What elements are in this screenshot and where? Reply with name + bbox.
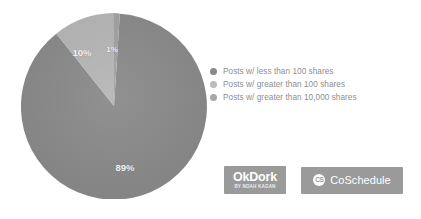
legend-dot-icon [210, 81, 217, 88]
coschedule-mark-label: CS [315, 174, 323, 186]
pie-chart-svg: 10% 1% 89% [21, 13, 207, 199]
legend-dot-icon [210, 94, 217, 101]
pie-chart-infographic: 10% 1% 89% Posts w/ less than 100 shares… [0, 0, 421, 219]
okdork-tagline: BY NOAH KAGAN [234, 184, 275, 190]
legend-item-greater-than-100[interactable]: Posts w/ greater than 100 shares [210, 79, 385, 91]
legend-item-label: Posts w/ less than 100 shares [223, 66, 334, 78]
branding-logos: OkDork BY NOAH KAGAN CS CoSchedule [224, 166, 403, 194]
legend-dot-icon [210, 68, 217, 75]
pie-label-greater-than-100: 10% [72, 47, 92, 58]
chart-legend: Posts w/ less than 100 shares Posts w/ g… [210, 66, 385, 105]
coschedule-mark-icon: CS [313, 174, 325, 186]
pie-label-less-than-100: 89% [115, 162, 135, 173]
okdork-wordmark: OkDork [233, 171, 277, 184]
pie-label-greater-than-10000: 1% [106, 45, 118, 54]
coschedule-wordmark: CoSchedule [330, 174, 390, 186]
legend-item-greater-than-10000[interactable]: Posts w/ greater than 10,000 shares [210, 92, 385, 104]
legend-item-label: Posts w/ greater than 10,000 shares [223, 92, 357, 104]
pie-shading-overlay [21, 13, 207, 199]
legend-item-label: Posts w/ greater than 100 shares [223, 79, 345, 91]
coschedule-logo[interactable]: CS CoSchedule [301, 167, 403, 194]
legend-item-less-than-100[interactable]: Posts w/ less than 100 shares [210, 66, 385, 78]
pie-chart: 10% 1% 89% [21, 13, 207, 199]
okdork-logo[interactable]: OkDork BY NOAH KAGAN [224, 166, 286, 194]
